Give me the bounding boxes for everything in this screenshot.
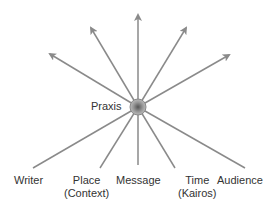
arrow-2 <box>91 28 138 107</box>
label-writer: Writer <box>14 174 43 187</box>
arrow-5 <box>138 55 229 107</box>
label-time: Time (Kairos) <box>178 174 217 200</box>
praxis-label: Praxis <box>91 100 122 113</box>
label-audience: Audience <box>217 174 263 187</box>
label-message: Message <box>116 174 161 187</box>
praxis-diagram: Praxis Writer Place (Context) Message Ti… <box>0 0 278 210</box>
arrow-4 <box>138 28 186 107</box>
label-place: Place (Context) <box>64 174 109 200</box>
praxis-node <box>130 99 146 115</box>
